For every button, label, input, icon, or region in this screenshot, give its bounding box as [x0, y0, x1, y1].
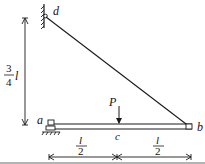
label-c: c [115, 130, 120, 142]
beam-rod-diagram: d a b P c 3 4 l [0, 0, 205, 164]
label-b: b [197, 120, 203, 134]
dim-left-denominator: 2 [78, 145, 84, 157]
label-p: P [108, 95, 117, 109]
dim-vertical-numerator: 3 [6, 62, 12, 74]
label-d: d [53, 4, 60, 18]
label-a: a [37, 113, 43, 127]
wall-support-d [41, 4, 47, 29]
load-arrow-p [116, 106, 122, 124]
support-a [42, 120, 60, 135]
rod-db [46, 17, 190, 127]
dimension-horizontal [49, 154, 191, 160]
dim-vertical-denominator: 4 [6, 76, 12, 88]
dim-right-denominator: 2 [155, 145, 161, 157]
beam-ab [48, 124, 192, 129]
